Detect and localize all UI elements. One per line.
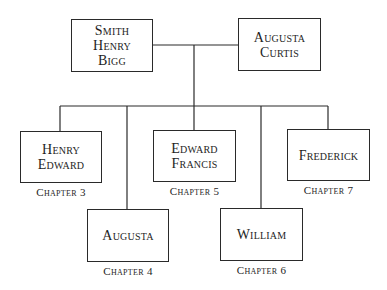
- person-name: Francis: [172, 156, 218, 171]
- person-box-frederick: Frederick: [287, 129, 370, 181]
- chapter-label-augusta: Chapter 4: [87, 265, 169, 277]
- person-name: Edward: [171, 141, 217, 156]
- family-tree-diagram: Smith Henry Bigg Augusta Curtis Henry Ed…: [0, 0, 387, 290]
- person-name: Augusta: [102, 228, 153, 243]
- person-name: Smith: [95, 23, 129, 38]
- person-name: William: [237, 227, 287, 242]
- person-name: Augusta: [254, 30, 305, 45]
- person-name: Frederick: [299, 148, 359, 163]
- person-box-augusta-curtis: Augusta Curtis: [238, 18, 321, 71]
- person-name: Henry: [42, 142, 80, 157]
- person-name: Bigg: [98, 53, 126, 68]
- person-box-william: William: [220, 208, 303, 261]
- chapter-label-edward-francis: Chapter 5: [153, 185, 236, 197]
- person-box-smith-henry-bigg: Smith Henry Bigg: [71, 19, 153, 72]
- person-name: Henry: [93, 38, 131, 53]
- person-box-augusta: Augusta: [87, 209, 169, 262]
- chapter-label-william: Chapter 6: [220, 264, 303, 276]
- person-name: Edward: [38, 157, 84, 172]
- person-name: Curtis: [260, 45, 299, 60]
- person-box-edward-francis: Edward Francis: [153, 130, 236, 182]
- chapter-label-henry-edward: Chapter 3: [20, 186, 102, 198]
- chapter-label-frederick: Chapter 7: [287, 184, 370, 196]
- person-box-henry-edward: Henry Edward: [20, 131, 102, 183]
